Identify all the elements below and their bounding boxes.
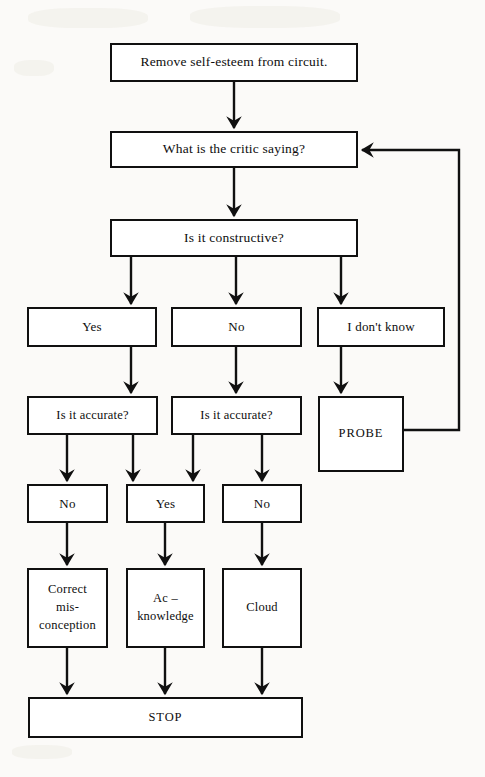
node-acknowledge[interactable]: Ac – knowledge xyxy=(126,568,205,648)
flowchart-page: Remove self-esteem from circuit. What is… xyxy=(0,0,485,777)
node-cloud[interactable]: Cloud xyxy=(222,568,302,648)
node-probe[interactable]: PROBE xyxy=(318,396,404,472)
node-is-accurate-right[interactable]: Is it accurate? xyxy=(171,396,302,435)
node-stop[interactable]: STOP xyxy=(28,697,303,738)
node-is-accurate-left[interactable]: Is it accurate? xyxy=(27,396,158,435)
node-label: Ac – knowledge xyxy=(133,590,198,626)
node-result-no-right[interactable]: No xyxy=(222,484,302,523)
node-remove-self-esteem[interactable]: Remove self-esteem from circuit. xyxy=(110,43,358,82)
node-answer-yes[interactable]: Yes xyxy=(27,307,157,347)
node-label: Is it constructive? xyxy=(180,230,288,246)
node-what-critic-saying[interactable]: What is the critic saying? xyxy=(110,131,358,168)
node-label: What is the critic saying? xyxy=(159,141,309,157)
node-is-constructive[interactable]: Is it constructive? xyxy=(110,219,358,257)
node-label: No xyxy=(55,496,79,512)
node-label: STOP xyxy=(145,710,187,725)
node-label: Remove self-esteem from circuit. xyxy=(136,54,331,70)
node-answer-dont-know[interactable]: I don't know xyxy=(317,307,445,347)
node-label: Cloud xyxy=(242,599,282,617)
node-label: No xyxy=(250,496,274,512)
node-result-yes-mid[interactable]: Yes xyxy=(126,484,205,523)
node-correct-misconception[interactable]: Correct mis- conception xyxy=(27,568,108,648)
node-label: Is it accurate? xyxy=(52,408,132,423)
node-label: No xyxy=(224,319,248,335)
node-label: Yes xyxy=(152,496,180,512)
node-label: Correct mis- conception xyxy=(35,581,100,634)
node-label: Yes xyxy=(78,319,106,335)
node-answer-no[interactable]: No xyxy=(171,307,302,347)
node-result-no-left[interactable]: No xyxy=(27,484,108,523)
node-label: PROBE xyxy=(335,426,388,441)
node-label: Is it accurate? xyxy=(196,408,276,423)
node-label: I don't know xyxy=(343,319,419,335)
page-background xyxy=(0,0,485,777)
